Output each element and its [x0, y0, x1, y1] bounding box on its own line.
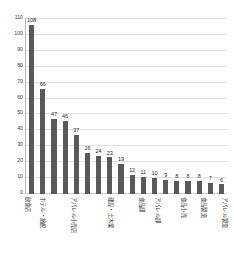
y-axis-tick-labels: 0102030405060708090100110 [0, 18, 23, 194]
y-tick-label-80: 80 [1, 63, 23, 68]
bar-value-label: 47 [51, 112, 57, 117]
bar-rect[interactable] [96, 156, 101, 194]
bar-column[interactable]: 10 [149, 18, 160, 194]
bar-chart: 0102030405060708090100110 10866474637262… [0, 0, 234, 267]
bar-rect[interactable] [219, 184, 224, 194]
bar-column[interactable]: 9 [160, 18, 171, 194]
y-tick-label-30: 30 [1, 143, 23, 148]
bar-column[interactable]: 66 [37, 18, 48, 194]
bar-value-label: 37 [73, 128, 79, 133]
bar-column[interactable]: 11 [138, 18, 149, 194]
bar-column[interactable]: 24 [93, 18, 104, 194]
x-axis-label: 食品製造 [201, 197, 207, 218]
bar-value-label: 11 [141, 170, 147, 175]
bar-value-label: 7 [209, 176, 212, 181]
bar-rect[interactable] [74, 135, 79, 194]
y-tick-label-20: 20 [1, 159, 23, 164]
x-label-slot: ホテル・旅館 [42, 196, 73, 267]
bar-column[interactable]: 19 [115, 18, 126, 194]
bar-rect[interactable] [141, 177, 146, 195]
bar-value-label: 26 [84, 146, 90, 151]
bar-column[interactable]: 47 [48, 18, 59, 194]
bar-column[interactable]: 23 [104, 18, 115, 194]
bar-value-label: 46 [62, 114, 68, 119]
y-tick-label-70: 70 [1, 79, 23, 84]
y-tick-label-100: 100 [1, 31, 23, 36]
x-label-slot: 建設・土木業 [109, 196, 140, 267]
y-tick-label-110: 110 [1, 15, 23, 20]
bar-rect[interactable] [185, 181, 190, 194]
bar-column[interactable]: 8 [194, 18, 205, 194]
bar-rect[interactable] [29, 25, 34, 194]
bar-value-label: 108 [27, 18, 36, 23]
y-tick-label-60: 60 [1, 95, 23, 100]
bar-rect[interactable] [51, 119, 56, 194]
bar-column[interactable]: 37 [71, 18, 82, 194]
x-axis-label: ホテル・旅館 [40, 197, 46, 228]
x-axis-label: アパレル製造 [222, 197, 228, 228]
bar-value-label: 23 [107, 151, 113, 156]
bar-rect[interactable] [118, 164, 123, 194]
bar-value-label: 8 [186, 174, 189, 179]
y-tick-label-90: 90 [1, 47, 23, 52]
bar-value-label: 19 [118, 157, 124, 162]
bar-value-label: 24 [96, 149, 102, 154]
x-label-slot: アパレル製造 [224, 196, 234, 267]
x-axis-label: 建設・土木業 [107, 197, 113, 228]
y-tick-label-40: 40 [1, 127, 23, 132]
bar-rect[interactable] [197, 181, 202, 194]
bar-rect[interactable] [174, 181, 179, 194]
x-axis-category-labels: 飲食店ホテル・旅館アパレル小売店建設・土木業食品卸アパレル卸食品小売食品製造アパ… [26, 196, 227, 267]
bar-column[interactable]: 108 [26, 18, 37, 194]
bar-column[interactable]: 26 [82, 18, 93, 194]
bar-value-label: 66 [40, 82, 46, 87]
bar-rect[interactable] [107, 157, 112, 194]
bar-rect[interactable] [163, 180, 168, 194]
x-axis-label: 食品卸 [138, 197, 144, 213]
y-tick-label-10: 10 [1, 174, 23, 179]
bar-rect[interactable] [63, 121, 68, 194]
bar-column[interactable]: 8 [171, 18, 182, 194]
x-axis-label: アパレル小売店 [71, 197, 77, 233]
bar-rect[interactable] [85, 153, 90, 194]
y-tick-label-50: 50 [1, 111, 23, 116]
bar-column[interactable]: 8 [182, 18, 193, 194]
bar-rect[interactable] [130, 175, 135, 194]
x-label-slot: アパレル卸 [156, 196, 182, 267]
x-axis-label: 食品小売 [180, 197, 186, 218]
bar-value-label: 8 [175, 174, 178, 179]
bar-value-label: 6 [220, 178, 223, 183]
x-axis-label: アパレル卸 [154, 197, 160, 223]
bar-value-label: 8 [198, 174, 201, 179]
bar-column[interactable]: 12 [127, 18, 138, 194]
bar-rect[interactable] [152, 178, 157, 194]
bar-series: 1086647463726242319121110988876 [26, 18, 227, 194]
bar-value-label: 9 [164, 173, 167, 178]
x-axis-label: 飲食店 [24, 197, 30, 213]
bar-column[interactable]: 46 [60, 18, 71, 194]
bar-value-label: 12 [129, 168, 135, 173]
bar-column[interactable]: 6 [216, 18, 227, 194]
bar-rect[interactable] [40, 89, 45, 194]
bar-value-label: 10 [151, 171, 157, 176]
y-tick-label-0: 0 [1, 190, 23, 195]
bar-column[interactable]: 7 [205, 18, 216, 194]
x-label-slot: アパレル小売店 [73, 196, 109, 267]
bar-rect[interactable] [208, 183, 213, 194]
